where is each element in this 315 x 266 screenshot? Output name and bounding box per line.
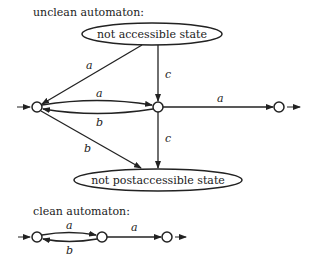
edge-label-q1-to-np: c [165,132,171,145]
edge-q0-to-np [41,111,141,168]
not-accessible-state: not accessible state [82,23,222,45]
edge-q0-to-q1 [42,101,152,106]
automata-diagram: not accessible state a c a b a b c not p… [0,0,315,266]
clean-edge-q1-to-q0 [43,239,97,242]
edge-label-q0-to-q1: a [96,87,103,100]
edge-label-q0-to-np: b [84,142,91,155]
clean-edge-label-q0-to-q1: a [66,219,73,232]
edge-q1-to-q0 [43,109,153,114]
edge-na-to-q0 [42,45,142,104]
not-accessible-state-label: not accessible state [97,28,207,41]
edge-label-na-to-q0: a [86,59,93,72]
edge-label-q1-to-q0: b [96,116,103,129]
not-postaccessible-state-label: not postaccessible state [91,174,225,187]
clean-edge-q0-to-q1 [42,233,96,236]
state-q1 [153,102,163,112]
state-q2 [274,102,284,112]
clean-edge-label-q1-to-q2: a [131,221,138,234]
clean-state-q0 [32,232,42,242]
not-postaccessible-state: not postaccessible state [74,169,242,191]
edge-label-na-to-q1: c [165,68,171,81]
clean-edge-label-q1-to-q0: b [66,244,73,257]
edge-label-q1-to-q2: a [217,92,224,105]
state-q0 [32,102,42,112]
clean-state-q2 [162,232,172,242]
clean-state-q1 [97,232,107,242]
